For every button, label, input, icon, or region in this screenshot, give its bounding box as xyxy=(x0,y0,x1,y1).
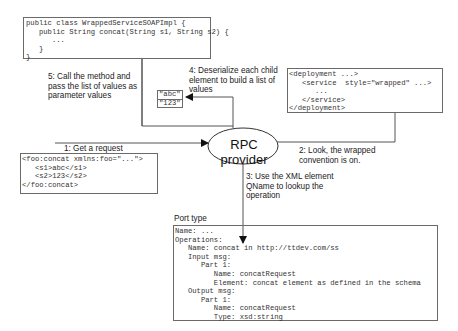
values-list: "abc" "123" xyxy=(157,90,183,108)
code-line: Name: concat in http://ttdev.com/ss xyxy=(175,244,436,253)
code-line: Name: ... xyxy=(175,227,436,236)
code-line: ... xyxy=(289,87,441,96)
code-line: Part 1: xyxy=(175,261,436,270)
port-type-title: Port type xyxy=(174,214,207,224)
step3-label: 3: Use the XML element QName to lookup t… xyxy=(246,172,334,201)
code-line: <deployment ...> xyxy=(289,70,441,79)
step4-label: 4: Deserialize each child element to bui… xyxy=(189,66,278,95)
code-line: Name: concatRequest xyxy=(175,304,436,313)
code-line: Input msg: xyxy=(175,253,436,262)
service-impl-code-box: public class WrappedServiceSOAPImpl { pu… xyxy=(23,17,211,59)
code-line: Type: xsd:string xyxy=(175,313,436,322)
soap-request-box: <foo:concat xmlns:foo="..."> <s1>abc</s1… xyxy=(20,153,158,194)
code-line: Name: concatRequest xyxy=(175,270,436,279)
code-line: public String concat(String s1, String s… xyxy=(26,28,208,37)
code-line: } xyxy=(26,45,208,54)
step2-label: 2: Look, the wrapped convention is on. xyxy=(299,146,375,165)
code-line: Part 1: xyxy=(175,296,436,305)
code-line: Element: concat element as defined in th… xyxy=(175,279,436,288)
rpc-provider-node: RPC provider xyxy=(210,137,278,167)
step5-label: 5: Call the method and pass the list of … xyxy=(48,72,137,101)
value-item: "123" xyxy=(157,100,183,109)
code-line: <foo:concat xmlns:foo="..."> xyxy=(22,155,156,164)
code-line: </service> xyxy=(289,96,441,105)
code-line: <service style="wrapped" ...> xyxy=(289,79,441,88)
code-line: </foo:concat> xyxy=(22,181,156,190)
code-line: </deployment> xyxy=(289,104,441,113)
code-line: <s1>abc</s1> xyxy=(22,164,156,173)
port-type-box: Name: ... Operations: Name: concat in ht… xyxy=(173,225,438,321)
code-line: public class WrappedServiceSOAPImpl { xyxy=(26,19,208,28)
deployment-descriptor-box: <deployment ...> <service style="wrapped… xyxy=(287,68,443,113)
code-line: } xyxy=(26,53,208,62)
code-line: <s2>123</s2> xyxy=(22,172,156,181)
code-line: Operations: xyxy=(175,236,436,245)
code-line: Output msg: xyxy=(175,287,436,296)
code-line: ... xyxy=(26,36,208,45)
